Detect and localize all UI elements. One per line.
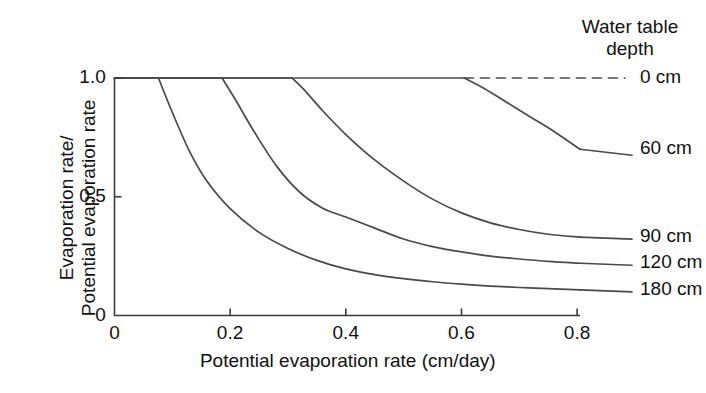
- x-axis-title: Potential evaporation rate (cm/day): [110, 350, 586, 372]
- y-axis-title: Evaporation rate/ Potential evaporation …: [56, 78, 100, 338]
- ticks-group: [115, 78, 578, 316]
- legend-label-0-cm: 0 cm: [640, 66, 681, 88]
- legend-leader-line: [580, 290, 632, 292]
- series-line-120-cm: [222, 78, 580, 263]
- series-line-60-cm: [464, 78, 580, 149]
- legend-title-line2: depth: [560, 38, 700, 60]
- legend-label-90-cm: 90 cm: [640, 225, 692, 247]
- legend-leader-line: [580, 263, 632, 265]
- axis-lines: [115, 78, 581, 316]
- legend-title-line1: Water table: [560, 16, 700, 38]
- legend-label-60-cm: 60 cm: [640, 137, 692, 159]
- y-axis-title-line1: Evaporation rate/: [56, 78, 78, 338]
- series-group: [115, 78, 633, 292]
- legend-label-180-cm: 180 cm: [640, 278, 702, 300]
- x-tick-label: 0.8: [561, 322, 593, 344]
- legend-title: Water table depth: [560, 16, 700, 61]
- axes-group: [115, 78, 581, 316]
- x-tick-label: 0.6: [445, 322, 477, 344]
- legend-leader-line: [580, 149, 632, 155]
- x-tick-label: 0.2: [214, 322, 246, 344]
- x-tick-label: 0.4: [330, 322, 362, 344]
- y-axis-title-line2: Potential evaporation rate: [78, 78, 100, 338]
- chart-figure: Water table depth 0 cm60 cm90 cm120 cm18…: [0, 0, 706, 393]
- legend-leader-line: [580, 237, 632, 239]
- legend-label-120-cm: 120 cm: [640, 251, 702, 273]
